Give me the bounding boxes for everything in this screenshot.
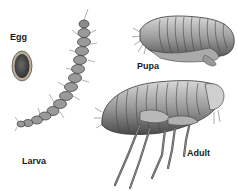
adult-label: Adult <box>187 148 210 158</box>
adult-illustration <box>94 81 224 188</box>
larva-label: Larva <box>22 156 46 166</box>
pupa-illustration <box>132 16 234 66</box>
egg-illustration <box>12 51 32 81</box>
egg-label: Egg <box>10 32 27 42</box>
pupa-label: Pupa <box>137 61 159 71</box>
